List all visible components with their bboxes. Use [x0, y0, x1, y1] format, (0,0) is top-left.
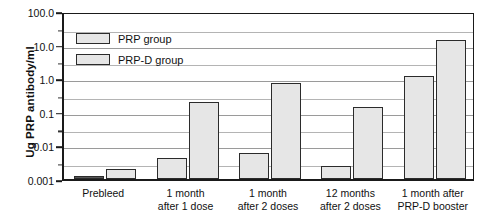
- legend-label-prp: PRP group: [118, 33, 172, 45]
- bar: [321, 166, 351, 179]
- bar: [74, 176, 104, 179]
- x-tick-label: 1 month after PRP-D booster: [384, 187, 482, 213]
- y-tick-label: 10.0: [2, 41, 54, 53]
- legend-item-prp: PRP group: [76, 30, 183, 47]
- legend-swatch-prp: [76, 33, 110, 44]
- y-tick-label: 0.1: [2, 108, 54, 120]
- bar: [271, 83, 301, 179]
- y-axis-title: Ug PRP antibody/ml: [24, 12, 36, 192]
- bar: [436, 40, 466, 179]
- legend-label-prp-d: PRP-D group: [118, 54, 183, 66]
- y-tick-label: 1.0: [2, 74, 54, 86]
- bar: [106, 169, 136, 179]
- legend-swatch-prp-d: [76, 54, 110, 65]
- y-tick-label: 100.0: [2, 7, 54, 19]
- bar: [189, 102, 219, 179]
- bar-chart: Ug PRP antibody/ml 100.010.01.00.10.010.…: [0, 0, 490, 219]
- legend: PRP group PRP-D group: [76, 30, 183, 72]
- legend-item-prp-d: PRP-D group: [76, 51, 183, 68]
- y-tick-label: 0.001: [2, 175, 54, 187]
- bar: [157, 158, 187, 179]
- bar: [239, 153, 269, 179]
- bar: [353, 107, 383, 179]
- y-tick-label: 0.01: [2, 141, 54, 153]
- bar: [404, 76, 434, 179]
